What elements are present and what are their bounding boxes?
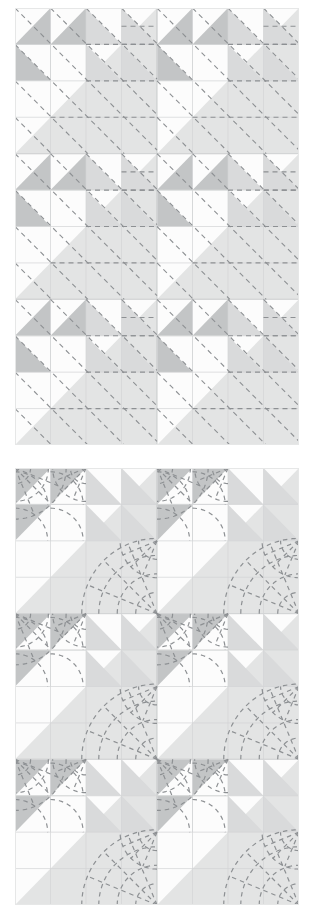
fan-arc-quilting-diagram-canvas (15, 468, 299, 905)
quilt-block (15, 759, 157, 905)
quilt-panel-straight-line-quilting (15, 8, 299, 445)
straight-line-quilting-diagram-canvas (15, 8, 299, 445)
quilt-block (15, 614, 157, 760)
quilt-block (15, 468, 157, 614)
quilt-block (157, 614, 299, 760)
quilt-panel-fan-arc-quilting (15, 468, 299, 905)
quilt-block (157, 759, 299, 905)
quilt-block (157, 468, 299, 614)
quilt-diagram-sheet (0, 0, 314, 914)
